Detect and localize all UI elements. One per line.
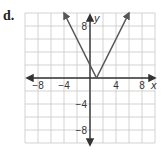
axes xyxy=(27,15,155,145)
y-axis-label: y xyxy=(93,12,101,24)
x-axis-label: x xyxy=(150,79,157,91)
x-tick-label: 8 xyxy=(139,80,145,91)
y-tick-label: −4 xyxy=(76,99,88,110)
x-tick-label: 4 xyxy=(113,80,119,91)
y-tick-label: −8 xyxy=(76,125,88,136)
x-tick-label: −4 xyxy=(58,80,70,91)
graph-left-branch xyxy=(64,13,97,78)
graph-right-branch xyxy=(97,13,130,78)
y-tick-label: 8 xyxy=(81,21,87,32)
coordinate-plane: −8−4488−4−8xy xyxy=(0,0,162,154)
x-tick-label: −8 xyxy=(32,80,44,91)
